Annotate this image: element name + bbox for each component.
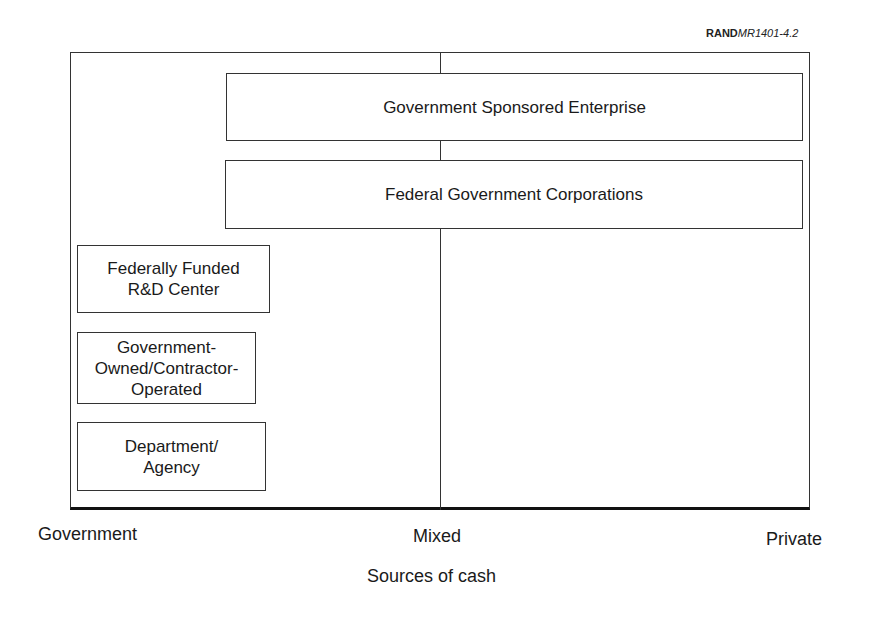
axis-label-private: Private <box>766 529 822 550</box>
axis-label-government: Government <box>38 524 137 545</box>
axis-title: Sources of cash <box>367 566 496 587</box>
box-label: Department/ Agency <box>125 436 219 478</box>
figure-ref-code: MR1401-4.2 <box>738 27 799 39</box>
figure-reference: RANDMR1401-4.2 <box>706 27 798 39</box>
box-label: Government Sponsored Enterprise <box>383 97 646 118</box>
box-label: Government- Owned/Contractor- Operated <box>95 337 239 400</box>
axis-label-mixed: Mixed <box>413 526 461 547</box>
box-label: Federally Funded R&D Center <box>107 258 239 300</box>
box-label: Federal Government Corporations <box>385 184 643 205</box>
box-federally-funded-rd-center: Federally Funded R&D Center <box>77 245 270 313</box>
box-goco: Government- Owned/Contractor- Operated <box>77 332 256 404</box>
box-government-sponsored-enterprise: Government Sponsored Enterprise <box>226 73 803 141</box>
box-department-agency: Department/ Agency <box>77 422 266 491</box>
figure-ref-prefix: RAND <box>706 27 738 39</box>
box-federal-government-corporations: Federal Government Corporations <box>225 160 803 229</box>
